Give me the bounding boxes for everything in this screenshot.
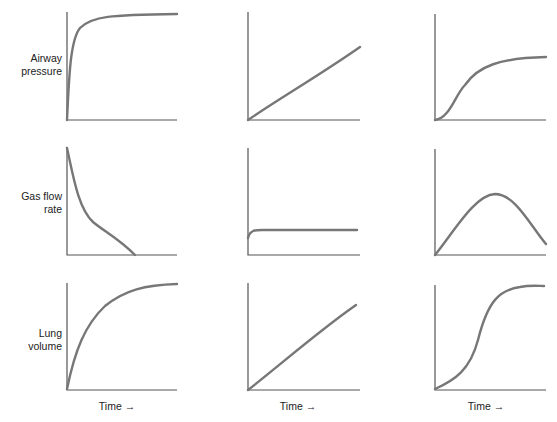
axis-r2c3	[435, 149, 546, 255]
axis-r3c2	[248, 283, 360, 390]
axes	[67, 12, 546, 390]
axis-r1c1	[67, 12, 177, 120]
curve-airway-pressure-1	[67, 14, 177, 120]
axis-r2c1	[67, 147, 177, 255]
x-axis-label-col2: Time →	[258, 400, 338, 412]
curve-gas-flow-2	[248, 230, 357, 238]
curves	[67, 14, 546, 390]
chart-grid	[0, 0, 557, 422]
x-axis-label-col3: Time →	[446, 400, 526, 412]
axis-r1c2	[248, 12, 360, 120]
curve-airway-pressure-2	[248, 47, 360, 120]
axis-r2c2	[248, 148, 360, 255]
curve-gas-flow-3	[435, 194, 546, 255]
curve-airway-pressure-3	[435, 57, 546, 120]
axis-r3c3	[435, 285, 546, 390]
curve-lung-volume-3	[435, 286, 544, 389]
x-axis-label-col1: Time →	[77, 400, 157, 412]
curve-lung-volume-1	[67, 284, 177, 389]
curve-gas-flow-1	[67, 148, 135, 255]
curve-lung-volume-2	[248, 305, 356, 390]
